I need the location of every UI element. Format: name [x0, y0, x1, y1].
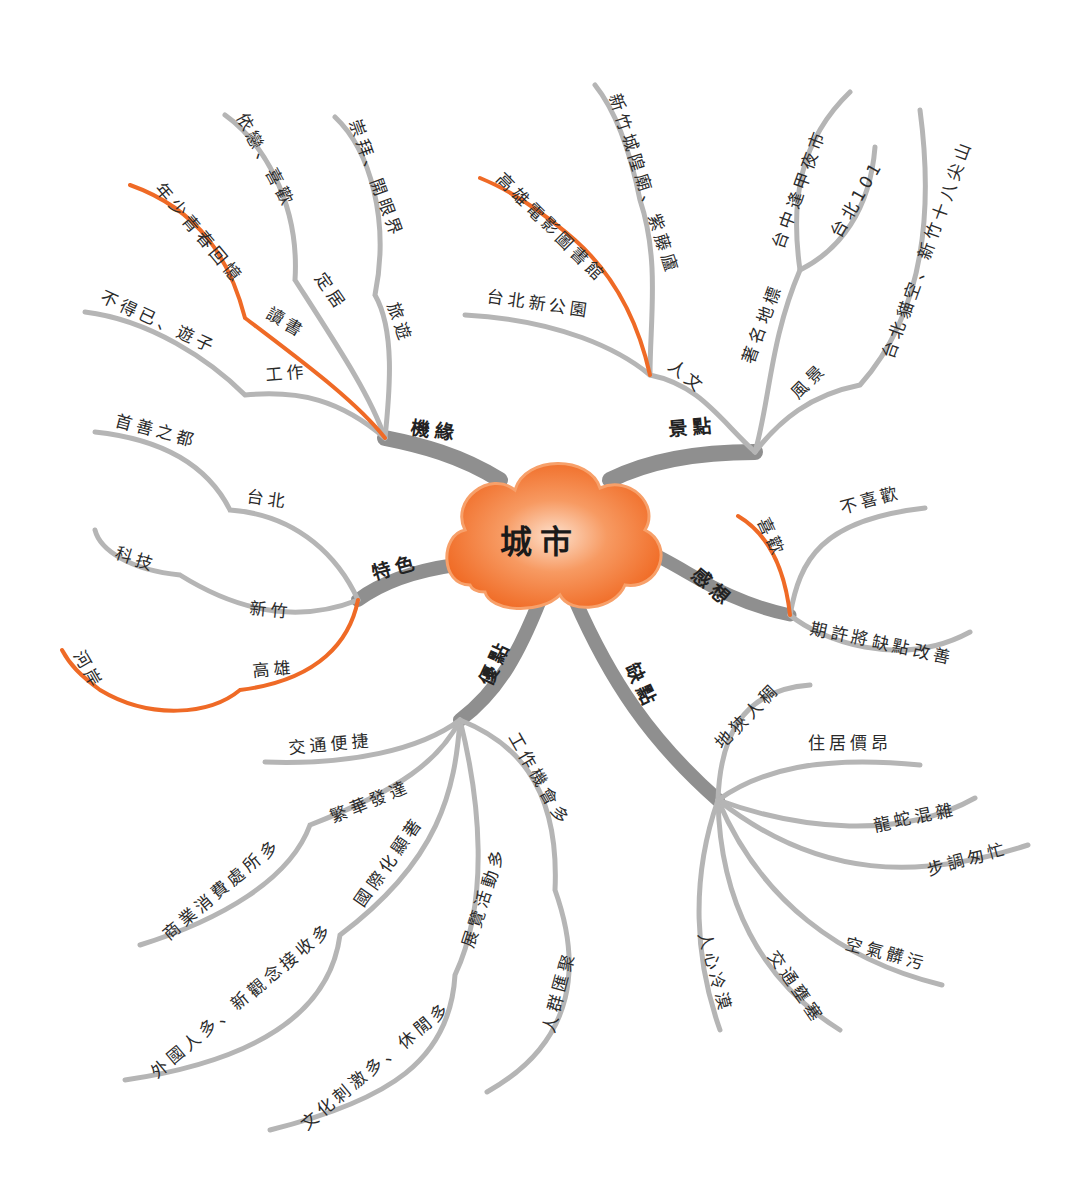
center-topic[interactable]: 城市 [500, 516, 580, 562]
branch-jiyuan-line [385, 438, 500, 480]
branch-jingdian[interactable]: 景點 [668, 416, 717, 439]
node-hsinchu[interactable]: 新竹 [249, 600, 292, 621]
node-zhuju-jiaang[interactable]: 住居價昂 [808, 735, 892, 752]
branch-jingdian-line [610, 452, 755, 480]
node-gongzuo[interactable]: 工作 [265, 363, 308, 384]
node-kaohsiung[interactable]: 高雄 [252, 659, 295, 680]
